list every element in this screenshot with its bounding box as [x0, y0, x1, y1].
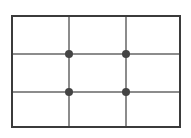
- power-point-bottom-left: [65, 88, 73, 96]
- grid-line-vertical-right: [125, 17, 127, 126]
- grid-line-horizontal-upper: [13, 53, 179, 55]
- grid-line-vertical-left: [68, 17, 70, 126]
- grid-frame: [11, 15, 181, 128]
- power-point-top-left: [65, 50, 73, 58]
- rule-of-thirds-diagram: [0, 0, 191, 138]
- grid-line-horizontal-lower: [13, 91, 179, 93]
- power-point-bottom-right: [122, 88, 130, 96]
- power-point-top-right: [122, 50, 130, 58]
